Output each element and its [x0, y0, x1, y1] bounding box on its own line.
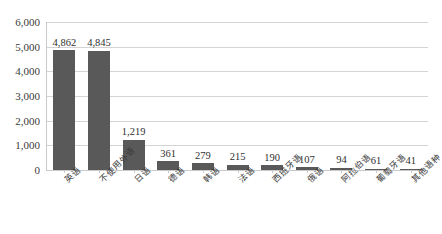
y-axis-tick-label: 0 [35, 164, 41, 176]
gridline [47, 22, 428, 23]
x-axis-tick [168, 170, 169, 173]
x-axis-tick [203, 170, 204, 173]
y-axis-tick-label: 2,000 [15, 115, 40, 127]
y-axis-tick-label: 6,000 [15, 16, 40, 28]
x-axis-tick [238, 170, 239, 173]
bar-value-label: 1,219 [108, 127, 160, 138]
x-axis-tick [376, 170, 377, 173]
bar[interactable] [53, 50, 75, 170]
bar-value-label: 4,845 [73, 38, 125, 49]
y-axis-tick-label: 5,000 [15, 41, 40, 53]
x-axis-tick [272, 170, 273, 173]
plot-area: 4,8624,8451,219361279215190107946141 [47, 22, 428, 170]
x-axis-tick [64, 170, 65, 173]
y-axis-tick-label: 3,000 [15, 90, 40, 102]
y-axis-tick-label: 4,000 [15, 65, 40, 77]
y-axis-tick-labels: 01,0002,0003,0004,0005,0006,000 [0, 0, 44, 234]
x-axis-tick [99, 170, 100, 173]
x-axis-tick [411, 170, 412, 173]
x-axis-tick [134, 170, 135, 173]
bar[interactable] [88, 51, 110, 171]
x-axis-tick [307, 170, 308, 173]
x-axis-tick [341, 170, 342, 173]
y-axis-tick-label: 1,000 [15, 139, 40, 151]
